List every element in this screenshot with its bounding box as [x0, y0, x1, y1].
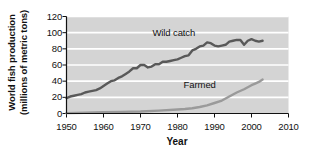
series-label-wild-catch: Wild catch [152, 28, 195, 38]
series-label-farmed: Farmed [184, 80, 216, 90]
plot-area [0, 0, 309, 153]
fish-production-chart: World fish production (millions of metri… [0, 0, 309, 153]
